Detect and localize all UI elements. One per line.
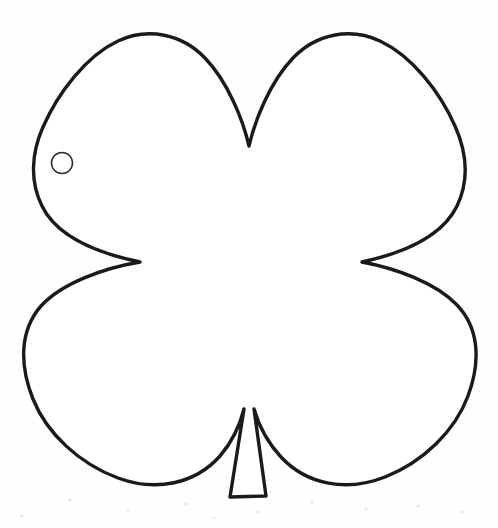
clover-worksheet-page — [0, 0, 498, 528]
punch-hole-circle — [52, 153, 73, 174]
clover-artwork-canvas — [0, 0, 498, 528]
